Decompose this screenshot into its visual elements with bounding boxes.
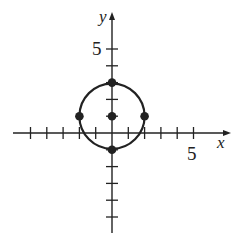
y-axis-label: y	[97, 7, 107, 26]
axes	[13, 12, 231, 233]
data-point	[108, 78, 117, 87]
data-point	[108, 146, 117, 155]
y-tick-label-5: 5	[92, 38, 102, 59]
data-point	[108, 112, 117, 121]
coordinate-plane: x y 5 5	[0, 0, 240, 243]
y-axis-arrow-icon	[109, 12, 115, 20]
data-point	[140, 112, 149, 121]
data-point	[75, 112, 84, 121]
x-axis-label: x	[216, 133, 225, 152]
x-tick-label-5: 5	[187, 143, 197, 164]
